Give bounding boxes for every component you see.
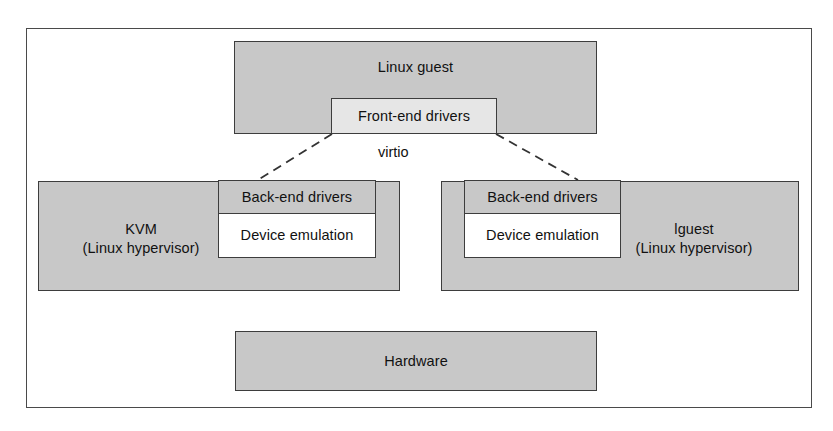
lguest-device-emulation-label: Device emulation bbox=[486, 226, 599, 244]
diagram-canvas: Linux guest Front-end drivers virtio KVM… bbox=[0, 0, 833, 431]
kvm-back-end-drivers-block: Back-end drivers bbox=[218, 180, 376, 214]
kvm-hypervisor-label: KVM (Linux hypervisor) bbox=[53, 220, 229, 258]
lguest-hypervisor-label: lguest (Linux hypervisor) bbox=[606, 220, 782, 258]
hardware-block: Hardware bbox=[235, 331, 597, 391]
kvm-device-emulation-label: Device emulation bbox=[241, 226, 354, 244]
lguest-back-end-drivers-label: Back-end drivers bbox=[487, 188, 597, 206]
kvm-device-emulation-block: Device emulation bbox=[218, 213, 376, 258]
front-end-drivers-label: Front-end drivers bbox=[358, 107, 470, 125]
lguest-device-emulation-block: Device emulation bbox=[464, 213, 621, 258]
front-end-drivers-block: Front-end drivers bbox=[331, 98, 497, 134]
virtio-label: virtio bbox=[374, 144, 413, 160]
hardware-label: Hardware bbox=[384, 352, 448, 370]
kvm-back-end-drivers-label: Back-end drivers bbox=[242, 188, 352, 206]
lguest-back-end-drivers-block: Back-end drivers bbox=[464, 180, 621, 214]
linux-guest-label: Linux guest bbox=[235, 58, 596, 76]
